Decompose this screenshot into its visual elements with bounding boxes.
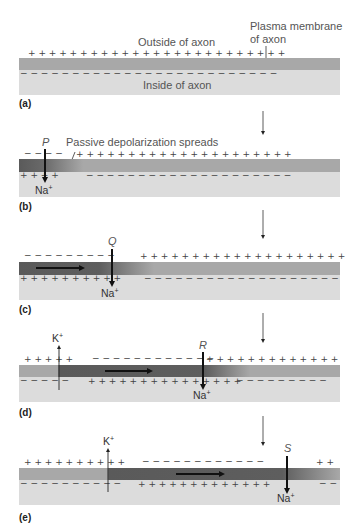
- point-p: P: [42, 136, 50, 148]
- outside-label: Outside of axon: [138, 36, 215, 48]
- inside-charges: − − − − − − − − − − − − − − − − − − −: [144, 273, 339, 283]
- passive-label: Passive depolarization spreads: [66, 136, 219, 148]
- panel-a: Outside of axon Plasma membrane of axon …: [19, 20, 342, 109]
- outside-charges: + + + + + + + + + +: [24, 457, 125, 467]
- outside-charges: − − − −: [24, 148, 63, 158]
- panel-d: K+ R + + + + + − − − − − − − − − − − − +…: [19, 313, 340, 418]
- point-r: R: [199, 339, 207, 351]
- point-q: Q: [108, 235, 117, 247]
- panel-label-b: (b): [19, 201, 32, 212]
- inside-charges: − − − − − − − − − −: [20, 478, 121, 488]
- outside-charges: + + + + + + + + + + + + +: [206, 354, 338, 364]
- inside-charges: − −: [319, 478, 337, 488]
- inside-charges: − − − − − − − − − − − − − − − − − − − − …: [20, 68, 277, 78]
- k-ion-e: K+: [103, 435, 114, 447]
- outside-charges: + + + + + + + + + + + + + + + + + + + +: [140, 251, 345, 261]
- inside-charges: + + + +: [20, 170, 59, 180]
- panel-b: P Passive depolarization spreads − − − −…: [19, 111, 340, 212]
- outside-charges: + +: [316, 457, 334, 467]
- inside-charges: + + + + + + + + + + + + + + +: [88, 376, 241, 386]
- point-s: S: [284, 442, 292, 454]
- panel-label-a: (a): [19, 98, 31, 109]
- inside-charges: − − − − − − − − − − − − − − − − − − − −: [86, 170, 291, 180]
- action-potential-diagram: Outside of axon Plasma membrane of axon …: [0, 0, 357, 528]
- outside-charges: + + + + +: [24, 354, 73, 364]
- inside-charges: + + + + + + + + + + + + +: [138, 479, 270, 489]
- inside-charges: + + + + + + + + + +: [20, 273, 121, 283]
- membrane-label-line2: of axon: [250, 33, 286, 45]
- panel-label-c: (c): [19, 304, 31, 315]
- outside-charges: − − − − − − − − − − − −: [142, 456, 264, 466]
- panel-e: K+ S + + + + + + + + + + − − − − − − − −…: [19, 416, 340, 523]
- outside-charges: − − − − − − − − − − − −: [92, 353, 214, 363]
- panel-c: Q − − − − − − − − − + + + + + + + + + + …: [19, 210, 345, 315]
- inside-charges: − − − − − − − − −: [236, 375, 327, 385]
- outside-charges: + + + + + + + + + + + + + + + + + + + + …: [76, 149, 292, 159]
- inside-label: Inside of axon: [143, 79, 212, 91]
- panel-label-d: (d): [19, 407, 32, 418]
- outside-charges: − − − − − − − − −: [24, 250, 115, 260]
- outside-charges: + + + + + + + + + + + + + + + + + + + + …: [28, 48, 285, 58]
- inside-charges: − − − − −: [20, 375, 69, 385]
- membrane-label-line1: Plasma membrane: [250, 20, 342, 32]
- k-ion-d: K+: [52, 332, 63, 344]
- panel-label-e: (e): [19, 512, 31, 523]
